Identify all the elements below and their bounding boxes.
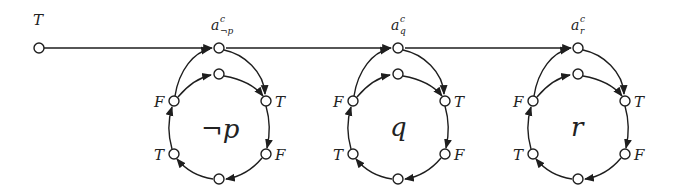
gadget-r: a c r F T T F r: [512, 14, 645, 184]
gadget-not-p: a c ¬p F T T F ¬p: [153, 14, 286, 184]
label-sup: c: [400, 14, 405, 24]
node-bottom: [573, 174, 583, 184]
label-upper-right: T: [275, 93, 286, 111]
label-lower-right: F: [633, 146, 645, 164]
label-upper-left: F: [153, 93, 165, 111]
node-bottom: [214, 174, 224, 184]
label-sup: c: [580, 14, 585, 24]
main-chain: T: [33, 11, 571, 53]
label-upper-left: F: [332, 93, 344, 111]
node-lower-left: [348, 149, 358, 159]
node-upper-right: [261, 96, 271, 106]
node-a-q: [393, 43, 403, 53]
start-node: [34, 43, 44, 53]
node-upper-right: [440, 96, 450, 106]
center-label: r: [571, 112, 585, 142]
node-upper-right: [620, 96, 630, 106]
label-a: a: [391, 17, 399, 33]
node-lower-left: [169, 149, 179, 159]
node-inner-top: [214, 69, 224, 79]
node-inner-top: [573, 69, 583, 79]
label-lower-right: F: [453, 146, 465, 164]
node-lower-right: [261, 149, 271, 159]
label-sub: r: [580, 26, 585, 36]
node-upper-left: [528, 96, 538, 106]
label-lower-left: T: [154, 146, 165, 164]
node-a-notp: [214, 43, 224, 53]
center-label: ¬p: [201, 114, 240, 144]
label-sub: q: [400, 26, 406, 36]
gadget-q: a c q F T T F q: [332, 14, 465, 184]
label-lower-left: T: [333, 146, 344, 164]
node-bottom: [393, 174, 403, 184]
label-sup: c: [220, 14, 225, 24]
node-lower-right: [440, 149, 450, 159]
label-lower-right: F: [274, 146, 286, 164]
label-upper-right: T: [454, 93, 465, 111]
node-inner-top: [393, 69, 403, 79]
node-upper-left: [169, 96, 179, 106]
label-upper-right: T: [634, 93, 645, 111]
node-upper-left: [348, 96, 358, 106]
label-sub: ¬p: [220, 26, 234, 36]
label-lower-left: T: [513, 146, 524, 164]
center-label: q: [390, 112, 407, 142]
label-upper-left: F: [512, 93, 524, 111]
node-a-r: [573, 43, 583, 53]
start-node-label: T: [33, 11, 44, 29]
label-a: a: [571, 17, 579, 33]
node-lower-right: [620, 149, 630, 159]
label-a: a: [211, 17, 219, 33]
variable-gadget-diagram: T a c ¬p F T T F ¬p: [0, 0, 683, 190]
node-lower-left: [528, 149, 538, 159]
